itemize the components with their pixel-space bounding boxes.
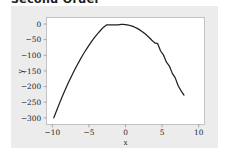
- x-tick-label: −5: [83, 128, 94, 137]
- y-tick-label: −100: [21, 51, 42, 60]
- page-title: Second Order: [11, 0, 100, 4]
- y-axis-ticks: [44, 24, 47, 118]
- y-tick-label: −50: [26, 35, 42, 44]
- y-tick-label: −300: [21, 114, 42, 123]
- chart-screenshot: Second Order: [0, 0, 225, 154]
- x-tick-label: −10: [44, 128, 60, 137]
- x-axis-ticks: [52, 125, 198, 128]
- figure-panel: 0 −50 −100 −150 −200 −250 −300 −10 −5 0 …: [11, 6, 218, 148]
- y-tick-label: −200: [21, 82, 42, 91]
- y-tick-label: −250: [21, 98, 42, 107]
- y-axis-label: y: [16, 69, 25, 75]
- x-tick-label: 10: [194, 128, 204, 137]
- x-tick-label: 0: [123, 128, 128, 137]
- y-tick-label: 0: [36, 20, 41, 29]
- x-tick-label: 5: [160, 128, 165, 137]
- x-axis-label: x: [123, 138, 128, 147]
- plot-area: [47, 18, 205, 125]
- chart-svg: 0 −50 −100 −150 −200 −250 −300 −10 −5 0 …: [11, 6, 218, 148]
